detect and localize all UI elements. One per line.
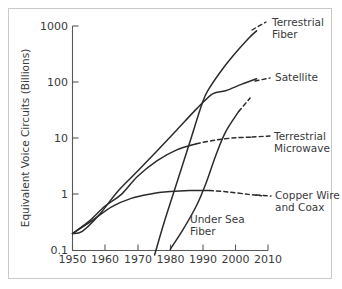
- series-label-terrestrial-fiber-line1: Terrestrial: [271, 16, 324, 28]
- series-label-copper-wire-line1: Copper Wire: [275, 189, 340, 201]
- y-axis-tick-labels: 1000 100 10 1 0.1: [40, 20, 68, 257]
- series-label-copper-wire-line2: and Coax: [275, 201, 325, 213]
- leader-terrestrial-fiber: [252, 22, 266, 30]
- y-tick-label-1: 1: [61, 188, 68, 201]
- x-tick-label-1980: 1980: [157, 253, 185, 266]
- series-label-under-sea-fiber-line1: Under Sea: [190, 213, 245, 225]
- x-tick-label-2000: 2000: [222, 253, 250, 266]
- leader-copper-wire: [256, 195, 271, 196]
- series-path-under-sea-fiber-dashed: [239, 98, 250, 111]
- series-label-under-sea-fiber-line2: Fiber: [190, 225, 216, 237]
- y-tick-label-100: 100: [47, 76, 68, 89]
- series-labels: Terrestrial Fiber Satellite Terrestrial …: [190, 16, 340, 237]
- x-axis-tick-labels: 1950 1960 1970 1980 1990 2000 2010: [59, 253, 283, 266]
- x-tick-label-1950: 1950: [59, 253, 87, 266]
- series-label-terrestrial-fiber-line2: Fiber: [272, 28, 298, 40]
- series-label-satellite: Satellite: [275, 71, 318, 83]
- y-tick-label-1000: 1000: [40, 20, 68, 33]
- y-axis-ticks: [73, 26, 79, 251]
- series-label-terrestrial-microwave-line1: Terrestrial: [273, 130, 326, 142]
- leader-terrestrial-microwave: [252, 136, 270, 137]
- series-label-terrestrial-microwave-line2: Microwave: [274, 142, 330, 154]
- y-tick-label-10: 10: [54, 132, 68, 145]
- line-chart: 1000 100 10 1 0.1 1950 1960 1970 1980 19…: [0, 0, 342, 289]
- y-axis-title: Equivalent Voice Circuits (Billions): [19, 49, 31, 228]
- series-path-copper-wire-and-coax-dashed: [209, 191, 261, 196]
- chart-page: 1000 100 10 1 0.1 1950 1960 1970 1980 19…: [0, 0, 342, 289]
- x-tick-label-2010: 2010: [254, 253, 282, 266]
- series-path-terrestrial-microwave-dashed: [196, 137, 251, 143]
- series-path-terrestrial-microwave-solid: [73, 144, 197, 234]
- x-tick-label-1960: 1960: [91, 253, 119, 266]
- x-tick-label-1970: 1970: [124, 253, 152, 266]
- x-tick-label-1990: 1990: [189, 253, 217, 266]
- label-leader-lines: [252, 22, 271, 196]
- series-path-copper-wire-and-coax-solid: [73, 190, 210, 233]
